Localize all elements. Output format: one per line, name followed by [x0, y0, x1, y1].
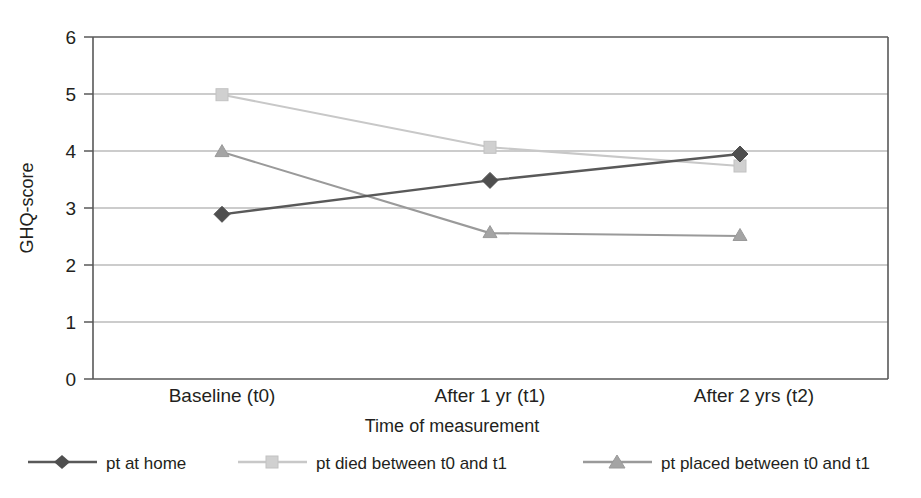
- series-line-pt-died: [222, 95, 740, 166]
- y-axis-ticks: [84, 37, 93, 379]
- datapoint-placed-t2: [733, 229, 747, 241]
- x-tick-label-t1: After 1 yr (t1): [435, 385, 546, 406]
- y-tick-label-5: 5: [65, 84, 76, 105]
- y-tick-label-4: 4: [65, 141, 76, 162]
- legend-item-pt-at-home[interactable]: pt at home: [28, 454, 186, 473]
- y-tick-label-2: 2: [65, 255, 76, 276]
- series-pt-placed: [215, 145, 747, 241]
- x-axis-title: Time of measurement: [365, 416, 539, 436]
- datapoint-home-t1: [482, 172, 498, 188]
- y-axis-title: GHQ-score: [17, 162, 37, 253]
- legend-item-pt-died[interactable]: pt died between t0 and t1: [238, 454, 507, 473]
- y-tick-label-3: 3: [65, 198, 76, 219]
- ghq-score-line-chart: 6 5 4 3 2 1 0 GHQ-score Baseline (t0) Af…: [0, 0, 921, 498]
- datapoint-died-t1: [484, 141, 496, 153]
- y-tick-label-6: 6: [65, 27, 76, 48]
- legend-label-pt-died: pt died between t0 and t1: [316, 454, 507, 473]
- series-pt-at-home: [214, 146, 748, 222]
- x-axis-tick-labels: Baseline (t0) After 1 yr (t1) After 2 yr…: [169, 385, 815, 406]
- series-line-pt-placed: [222, 152, 740, 236]
- legend-label-pt-at-home: pt at home: [106, 454, 186, 473]
- chart-legend: pt at home pt died between t0 and t1 pt …: [28, 454, 870, 473]
- datapoint-home-t0: [214, 206, 230, 222]
- x-tick-label-t0: Baseline (t0): [169, 385, 276, 406]
- y-tick-label-0: 0: [65, 369, 76, 390]
- y-tick-label-1: 1: [65, 312, 76, 333]
- series-line-pt-at-home: [222, 154, 740, 214]
- legend-marker-square-icon: [266, 456, 278, 468]
- legend-marker-diamond-icon: [54, 455, 70, 469]
- legend-item-pt-placed[interactable]: pt placed between t0 and t1: [583, 454, 870, 473]
- gridlines: [93, 94, 888, 322]
- series-pt-died: [216, 89, 746, 172]
- datapoint-died-t0: [216, 89, 228, 101]
- x-tick-label-t2: After 2 yrs (t2): [694, 385, 814, 406]
- y-axis-tick-labels: 6 5 4 3 2 1 0: [65, 27, 76, 390]
- chart-canvas: 6 5 4 3 2 1 0 GHQ-score Baseline (t0) Af…: [0, 0, 921, 498]
- legend-label-pt-placed: pt placed between t0 and t1: [661, 454, 870, 473]
